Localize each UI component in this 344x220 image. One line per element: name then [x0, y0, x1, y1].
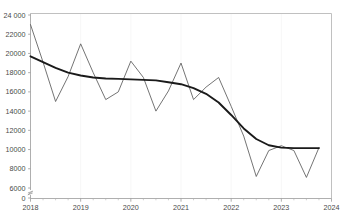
y-tick-label: 8000 — [10, 164, 26, 173]
chart-container: 0600080001000012000140001600018000200002… — [0, 0, 344, 220]
y-tick-label: 18000 — [6, 68, 26, 77]
y-tick-label: 16000 — [6, 87, 26, 96]
y-tick-label: 22000 — [6, 30, 26, 39]
y-tick-label: 20000 — [6, 49, 26, 58]
x-tick-label: 2020 — [123, 203, 139, 212]
x-tick-label: 2024 — [324, 203, 340, 212]
y-tick-label: 14000 — [6, 107, 26, 116]
y-tick-label: 6000 — [10, 184, 26, 193]
y-tick-label: 12000 — [6, 126, 26, 135]
y-tick-label: 0 — [22, 194, 26, 203]
x-tick-label: 2023 — [273, 203, 289, 212]
x-tick-label: 2021 — [173, 203, 189, 212]
x-tick-label: 2019 — [73, 203, 89, 212]
y-tick-label: 24 000 — [4, 11, 26, 20]
chart-background — [0, 0, 344, 220]
line-chart: 0600080001000012000140001600018000200002… — [0, 0, 344, 220]
y-tick-label: 10000 — [6, 145, 26, 154]
x-tick-label: 2018 — [23, 203, 39, 212]
x-tick-label: 2022 — [223, 203, 239, 212]
